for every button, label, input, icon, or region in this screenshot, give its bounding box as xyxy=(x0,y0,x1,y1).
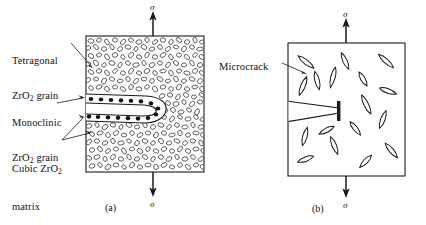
panel-b-caption: (b) xyxy=(312,203,324,214)
monoclinic-grain-label-line1: Monoclinic xyxy=(12,117,61,129)
cubic-matrix-label-line2: matrix xyxy=(12,201,62,213)
stress-symbol-top-a: σ xyxy=(150,2,154,12)
cubic-formula-subscript: 2 xyxy=(58,167,62,176)
microcrack-label: Microcrack xyxy=(219,61,268,73)
stress-symbol-bottom-a: σ xyxy=(150,199,154,209)
panel-b xyxy=(282,18,405,198)
stress-arrow-bottom-b xyxy=(342,176,349,198)
cubic-formula: Cubic ZrO xyxy=(12,163,58,174)
figure-canvas xyxy=(0,0,426,225)
stress-arrow-top-a xyxy=(149,11,156,36)
panel-a xyxy=(57,11,207,197)
cubic-matrix-label-line1: Cubic ZrO2 xyxy=(12,163,62,178)
stress-arrow-bottom-a xyxy=(149,172,156,197)
leader-cubic-1 xyxy=(62,118,83,140)
stress-symbol-top-b: σ xyxy=(343,9,347,19)
crack-tip-bar-b xyxy=(337,101,340,121)
crack-inner-a xyxy=(86,103,156,116)
stress-arrow-top-b xyxy=(342,18,349,43)
cubic-matrix-label: Cubic ZrO2 matrix xyxy=(12,140,62,224)
panel-a-caption: (a) xyxy=(105,202,116,213)
stress-symbol-bottom-b: σ xyxy=(343,200,347,210)
tetragonal-grain-label-line1: Tetragonal xyxy=(12,55,58,67)
